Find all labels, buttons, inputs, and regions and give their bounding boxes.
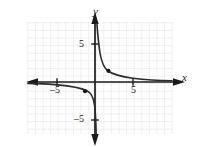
point-left-branch xyxy=(83,89,87,93)
point-right-branch xyxy=(106,69,110,73)
graph-figure: 5 –5 –5 5 x y xyxy=(0,0,208,147)
grid-lines xyxy=(28,22,172,134)
tick-label-x-positive-5: 5 xyxy=(131,84,136,95)
tick-label-y-positive-5: 5 xyxy=(79,38,84,49)
tick-label-y-negative-5: –5 xyxy=(74,113,84,124)
x-axis-label: x xyxy=(182,71,187,83)
coordinate-plane-svg xyxy=(0,0,208,147)
tick-label-x-negative-5: –5 xyxy=(50,84,60,95)
y-axis-label: y xyxy=(93,5,98,17)
